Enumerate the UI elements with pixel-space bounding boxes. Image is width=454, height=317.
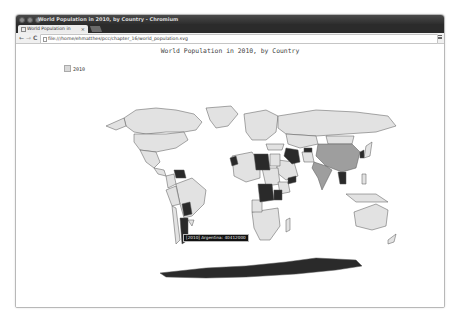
country-madagascar[interactable] [286,218,290,232]
country-new-zealand[interactable] [388,234,396,244]
country-turkey[interactable] [266,144,284,150]
country-tanzania[interactable] [274,190,282,200]
country-australia[interactable] [354,204,388,230]
country-indonesia[interactable] [346,194,388,202]
country-mongolia[interactable] [326,136,354,144]
tab-strip: World Population in × [16,24,444,33]
country-philippines[interactable] [362,174,366,184]
country-antarctica[interactable] [160,258,362,278]
map-tooltip: [2010] Argentina: 40412000 [183,234,249,242]
url-text[interactable]: file:///home/ehmatthes/pcc/chapter_16/wo… [48,35,188,43]
back-arrow-icon[interactable]: ← [19,33,24,43]
country-alaska[interactable] [106,118,126,130]
new-tab-button[interactable] [90,26,102,32]
forward-arrow-icon[interactable]: → [26,33,31,43]
country-colombia[interactable] [166,174,176,188]
country-canada[interactable] [124,108,202,134]
tab-close-icon[interactable]: × [81,25,85,33]
title-bar: World Population in 2010, by Country - C… [16,15,444,24]
browser-window: World Population in 2010, by Country - C… [15,14,445,308]
country-usa[interactable] [134,132,188,152]
toolbar: ← → C file:///home/ehmatthes/pcc/chapter… [16,33,444,44]
page-content: World Population in 2010, by Country 201… [16,44,444,307]
page-favicon-icon [21,27,26,32]
country-southern-africa[interactable] [252,208,280,240]
country-japan[interactable] [364,142,372,158]
country-egypt[interactable] [270,154,280,166]
country-chile[interactable] [172,206,180,244]
address-bar[interactable]: file:///home/ehmatthes/pcc/chapter_16/wo… [40,34,438,44]
tab-world-population[interactable]: World Population in × [18,25,88,33]
country-bolivia[interactable] [182,202,192,216]
country-sudan[interactable] [262,168,280,186]
country-afghanistan[interactable] [304,148,312,152]
country-north-korea[interactable] [360,150,364,158]
country-central-america[interactable] [154,168,166,176]
window-title: World Population in 2010, by Country - C… [38,15,178,24]
country-venezuela[interactable] [174,170,186,178]
country-kazakhstan[interactable] [286,134,318,148]
country-uruguay[interactable] [188,220,194,226]
reload-icon[interactable]: C [33,33,37,43]
country-pakistan[interactable] [302,152,314,162]
page-icon [43,37,47,42]
country-mexico[interactable] [140,150,160,168]
country-libya[interactable] [254,154,270,170]
menu-icon[interactable] [438,35,442,39]
tab-label: World Population in [27,25,71,33]
country-thailand[interactable] [338,172,346,184]
country-europe[interactable] [244,110,278,140]
country-russia[interactable] [278,110,396,136]
close-window-button[interactable] [19,17,25,23]
minimize-window-button[interactable] [27,17,33,23]
country-greenland[interactable] [206,106,238,128]
country-dr-congo[interactable] [258,184,274,202]
world-map [16,44,444,307]
